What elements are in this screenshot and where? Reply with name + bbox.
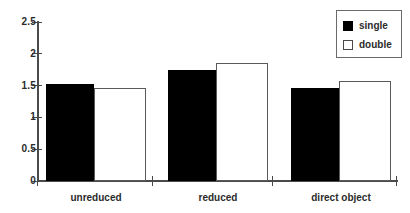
x-axis-label-direct-object: direct object (281, 192, 401, 203)
y-axis-tick-label: 2 (30, 49, 36, 59)
legend-swatch-double-icon (343, 40, 353, 50)
bar-chart: 00.511.522.5 unreducedreduceddirect obje… (0, 0, 410, 213)
legend-swatch-single-icon (343, 21, 353, 31)
bar-reduced-double (216, 63, 268, 181)
y-axis-tick-label: 0 (30, 176, 36, 186)
x-axis-label-unreduced: unreduced (36, 192, 156, 203)
y-axis-tick-label: 1 (30, 112, 36, 122)
y-axis-line (37, 21, 39, 182)
bar-direct-object-double (339, 81, 391, 181)
x-axis-tick (396, 176, 397, 186)
y-axis-tick-label: 1.5 (21, 81, 36, 91)
bar-unreduced-double (94, 88, 146, 181)
x-axis-label-reduced: reduced (158, 192, 278, 203)
y-axis-tick-label: 2.5 (21, 17, 36, 27)
legend-label-double: double (359, 40, 392, 50)
x-axis-tick (272, 176, 273, 186)
legend: single double (336, 10, 402, 58)
x-axis-tick-origin (37, 176, 38, 186)
y-axis-tick-label: 0.5 (21, 144, 36, 154)
legend-item-double: double (343, 35, 401, 54)
legend-item-single: single (343, 16, 401, 35)
bar-reduced-single (168, 70, 216, 181)
legend-label-single: single (359, 21, 388, 31)
bar-direct-object-single (291, 88, 339, 181)
bar-unreduced-single (46, 84, 94, 181)
x-axis-tick (152, 176, 153, 186)
